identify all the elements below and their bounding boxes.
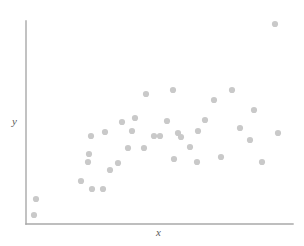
- scatter-point: [100, 186, 106, 192]
- scatter-point: [89, 186, 95, 192]
- scatter-point: [88, 133, 94, 139]
- axis-lines: [26, 21, 293, 224]
- scatter-point: [115, 160, 121, 166]
- scatter-point: [119, 119, 125, 125]
- scatter-point: [157, 133, 163, 139]
- scatter-point: [151, 133, 157, 139]
- scatter-point: [202, 117, 208, 123]
- scatter-points-group: [31, 21, 281, 218]
- scatter-point: [178, 134, 184, 140]
- scatter-point: [171, 156, 177, 162]
- scatter-point: [78, 178, 84, 184]
- scatter-point: [143, 91, 149, 97]
- scatter-point: [132, 115, 138, 121]
- scatter-point: [229, 87, 235, 93]
- scatter-point: [247, 137, 253, 143]
- scatter-point: [237, 125, 243, 131]
- scatter-point: [129, 128, 135, 134]
- scatter-point: [195, 128, 201, 134]
- x-axis-label: x: [156, 227, 161, 238]
- scatter-point: [141, 145, 147, 151]
- plot-canvas: [0, 0, 304, 246]
- scatter-point: [259, 159, 265, 165]
- scatter-point: [211, 97, 217, 103]
- scatter-point: [33, 196, 39, 202]
- scatter-point: [164, 118, 170, 124]
- scatter-point: [194, 159, 200, 165]
- scatter-point: [107, 167, 113, 173]
- scatter-point: [272, 21, 278, 27]
- scatter-point: [85, 159, 91, 165]
- scatter-point: [86, 151, 92, 157]
- scatter-point: [170, 87, 176, 93]
- scatter-point: [187, 144, 193, 150]
- scatter-point: [218, 154, 224, 160]
- scatter-point: [275, 130, 281, 136]
- y-axis-label: y: [12, 116, 17, 127]
- scatter-point: [125, 145, 131, 151]
- scatter-point: [31, 212, 37, 218]
- scatter-point: [251, 107, 257, 113]
- scatter-plot-figure: y x: [0, 0, 304, 246]
- scatter-point: [102, 129, 108, 135]
